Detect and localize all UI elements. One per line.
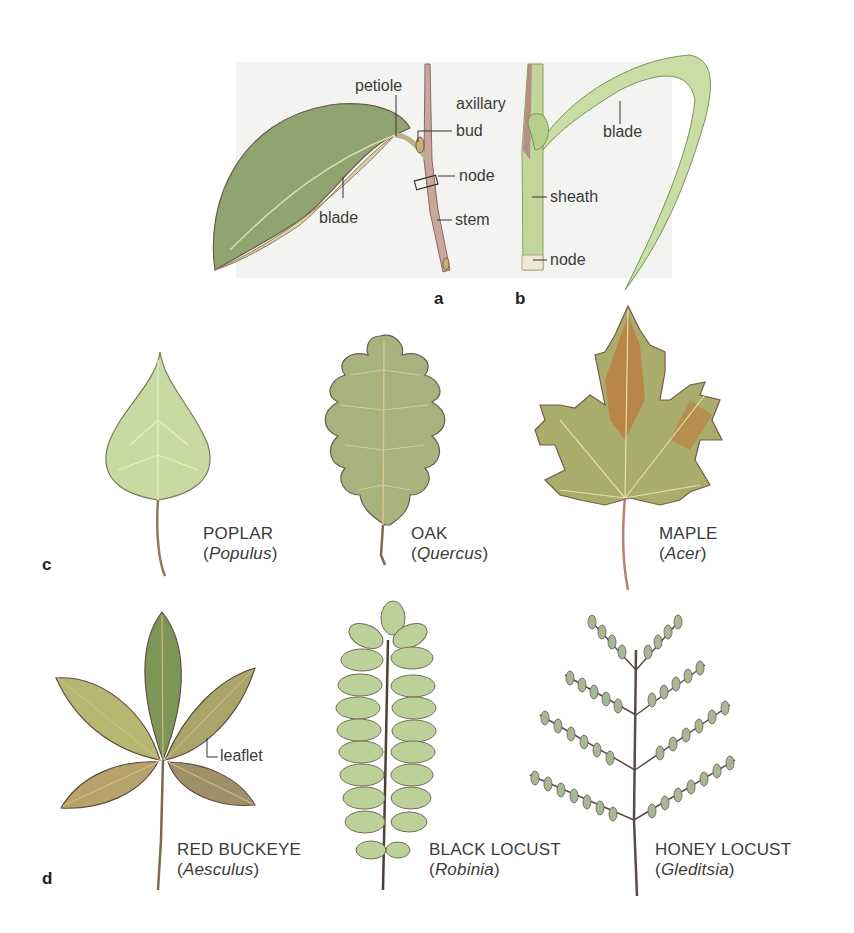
leaf-name-black-locust: BLACK LOCUST (Robinia) xyxy=(429,840,561,881)
genus-name: Aesculus xyxy=(183,860,254,879)
label-leaflet: leaflet xyxy=(220,748,263,764)
genus-name: Gleditsia xyxy=(661,860,729,879)
common-name: RED BUCKEYE xyxy=(177,840,301,860)
leaf-name-oak: OAK (Quercus) xyxy=(411,524,488,565)
label-sheath: sheath xyxy=(550,189,598,205)
genus-name: Robinia xyxy=(435,860,494,879)
common-name: OAK xyxy=(411,524,488,544)
leaf-name-honey-locust: HONEY LOCUST (Gleditsia) xyxy=(655,840,791,881)
genus-name: Populus xyxy=(209,544,272,563)
common-name: BLACK LOCUST xyxy=(429,840,561,860)
label-bud: bud xyxy=(456,123,483,139)
black-locust-leaf xyxy=(336,601,436,890)
panel-letter-b: b xyxy=(515,290,525,307)
genus-name: Acer xyxy=(665,544,701,563)
leaf-name-red-buckeye: RED BUCKEYE (Aesculus) xyxy=(177,840,301,881)
panel-letter-a: a xyxy=(434,290,443,307)
label-node-b: node xyxy=(550,252,586,268)
leaf-name-poplar: POPLAR (Populus) xyxy=(203,524,278,565)
common-name: POPLAR xyxy=(203,524,278,544)
leaf-name-maple: MAPLE (Acer) xyxy=(659,524,718,565)
panel-letter-c: c xyxy=(42,556,51,573)
panel-a-illustration xyxy=(213,64,455,272)
genus-name: Quercus xyxy=(417,544,483,563)
label-blade-b: blade xyxy=(603,124,642,140)
poplar-leaf xyxy=(106,352,210,576)
label-petiole: petiole xyxy=(355,78,402,94)
label-node-a: node xyxy=(459,168,495,184)
leaf-illustrations xyxy=(0,0,854,933)
label-stem: stem xyxy=(455,212,490,228)
common-name: MAPLE xyxy=(659,524,718,544)
label-axillary: axillary xyxy=(456,96,506,112)
panel-letter-d: d xyxy=(42,870,52,887)
common-name: HONEY LOCUST xyxy=(655,840,791,860)
label-blade-a: blade xyxy=(319,210,358,226)
